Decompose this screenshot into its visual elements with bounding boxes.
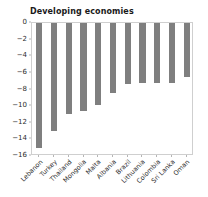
bar [139,23,145,83]
y-tick-label: 0 [23,18,27,26]
x-tick-mark [83,155,84,157]
chart-title: Developing economies [30,7,134,16]
y-tick-label: −8 [17,85,27,93]
bar [110,23,116,93]
y-tick-label: −4 [17,51,27,59]
x-axis: LebanonTurkeyThailandMongoliaMaltaAlbani… [31,155,193,197]
x-tick-mark [141,155,142,157]
bar [125,23,131,84]
bar [51,23,57,131]
bar [169,23,175,83]
bar [95,23,101,105]
x-tick-mark [97,155,98,157]
y-tick-label: −10 [12,101,27,109]
x-tick-mark [127,155,128,157]
bar [66,23,72,114]
x-tick-mark [186,155,187,157]
plot-area [31,22,193,155]
y-tick-label: −6 [17,68,27,76]
x-tick-mark [171,155,172,157]
bars-layer [32,23,192,154]
y-tick-label: −12 [12,118,27,126]
bar [184,23,190,77]
y-tick-label: −2 [17,35,27,43]
x-tick-mark [53,155,54,157]
y-axis: 0−2−4−6−8−10−12−14−16 [0,22,31,155]
bar [154,23,160,83]
y-tick-label: −16 [12,151,27,159]
y-tick-label: −14 [12,134,27,142]
x-tick-mark [112,155,113,157]
x-tick-mark [68,155,69,157]
bar [80,23,86,111]
chart-figure: Developing economies 0−2−4−6−8−10−12−14−… [0,0,208,197]
bar [36,23,42,148]
